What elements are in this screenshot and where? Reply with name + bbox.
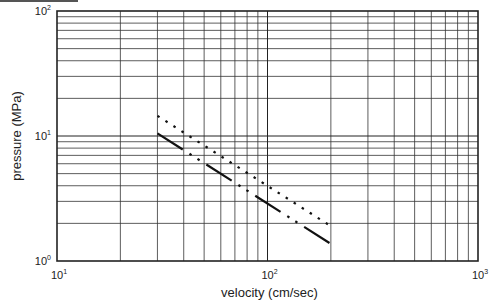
- y-tick-label: 100: [35, 254, 51, 267]
- y-tick-label: 102: [35, 4, 51, 17]
- x-tick-label: 101: [51, 268, 67, 281]
- grid-lines: [57, 11, 478, 261]
- x-tick-label: 102: [261, 268, 277, 281]
- x-tick-label: 103: [472, 268, 488, 281]
- y-tick-label: 101: [35, 129, 51, 142]
- tick-labels: 101102103100101102: [35, 4, 488, 281]
- y-axis-label: pressure (MPa): [9, 91, 24, 181]
- x-axis-label: velocity (cm/sec): [221, 285, 318, 300]
- log-log-chart: 101102103100101102 velocity (cm/sec) pre…: [0, 0, 499, 306]
